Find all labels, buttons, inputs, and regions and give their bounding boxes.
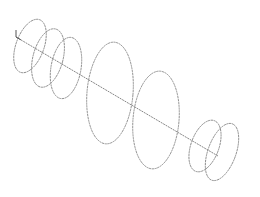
origin-mark-icon — [16, 30, 21, 40]
ring-ellipse-3 — [46, 35, 86, 101]
ring-group — [7, 15, 245, 185]
diagram-canvas — [0, 0, 260, 197]
ring-ellipse-5 — [129, 69, 183, 171]
ring-ellipse-1 — [7, 15, 52, 77]
ring-ellipse-4 — [83, 40, 138, 146]
ring-ellipse-7 — [199, 119, 246, 185]
ring-ellipse-2 — [26, 25, 71, 91]
